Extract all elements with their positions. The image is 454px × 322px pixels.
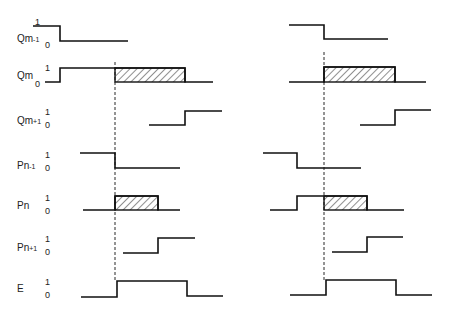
right-panel-qm_minus_1-waveform [289, 25, 388, 39]
left-panel [33, 26, 223, 297]
signal-label-pn_minus_1: Pn-1 [17, 161, 35, 172]
level-high-label-pn_plus_1: 1 [45, 235, 50, 244]
signal-label-qm_minus_1: Qm-1 [17, 34, 39, 45]
signal-label-qm_plus_1: Qm+1 [17, 116, 41, 127]
level-low-label-pn_plus_1: 0 [45, 248, 50, 257]
right-panel-e-waveform [290, 280, 432, 295]
signal-label-qm: Qm [17, 71, 33, 81]
level-high-label-pn: 1 [45, 194, 50, 203]
left-panel-pn_minus_1-waveform [80, 153, 180, 168]
signal-label-pn: Pn [17, 201, 29, 211]
left-panel-qm-hatched-region [115, 68, 185, 82]
level-low-label-pn: 0 [45, 207, 50, 216]
level-low-label-qm_plus_1: 0 [45, 121, 50, 130]
right-panel-qm_plus_1-waveform [360, 110, 431, 125]
left-panel-qm_minus_1-waveform [33, 26, 128, 41]
left-panel-e-waveform [81, 281, 223, 297]
left-panel-pn_plus_1-waveform [123, 238, 195, 253]
timing-diagram [0, 0, 454, 322]
level-low-label-pn_minus_1: 0 [45, 164, 50, 173]
right-panel [263, 25, 432, 295]
level-low-label-qm: 0 [35, 80, 40, 89]
right-panel-pn-hatched-region [324, 196, 367, 210]
right-panel-qm-hatched-region [324, 67, 395, 82]
left-panel-qm_plus_1-waveform [149, 111, 222, 125]
level-high-label-qm: 1 [45, 64, 50, 73]
right-panel-pn_minus_1-waveform [263, 153, 361, 168]
left-panel-pn-hatched-region [115, 196, 158, 210]
level-high-label-pn_minus_1: 1 [45, 151, 50, 160]
level-low-label-qm_minus_1: 0 [45, 41, 50, 50]
level-high-label-qm_minus_1: 1 [35, 18, 40, 27]
level-high-label-qm_plus_1: 1 [45, 108, 50, 117]
signal-label-e: E [17, 284, 24, 294]
right-panel-pn_plus_1-waveform [332, 237, 403, 252]
level-low-label-e: 0 [45, 291, 50, 300]
signal-label-pn_plus_1: Pn+1 [17, 243, 37, 254]
level-high-label-e: 1 [45, 278, 50, 287]
